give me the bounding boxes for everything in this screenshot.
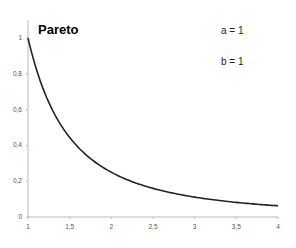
- y-tick-label: 0,8: [13, 70, 22, 77]
- y-tick-label: 0,2: [13, 177, 22, 184]
- axes: [26, 20, 278, 219]
- y-tick-label: 0: [18, 213, 22, 220]
- x-tick-label: 1: [26, 223, 30, 230]
- chart-title: Pareto: [38, 22, 79, 37]
- pareto-chart: 00,20,40,60,8111,522,533,54 Pareto a = 1…: [0, 0, 296, 248]
- y-tick-label: 1: [18, 34, 22, 41]
- x-tick-label: 2,5: [148, 223, 157, 230]
- y-tick-label: 0,4: [13, 141, 22, 148]
- x-tick-label: 1,5: [65, 223, 74, 230]
- y-tick-label: 0,6: [13, 106, 22, 113]
- param-b-label: b = 1: [221, 56, 244, 67]
- x-tick-label: 3,5: [232, 223, 241, 230]
- x-tick-label: 3: [193, 223, 197, 230]
- x-tick-label: 4: [276, 223, 280, 230]
- x-tick-label: 2: [110, 223, 114, 230]
- param-a-label: a = 1: [221, 25, 244, 36]
